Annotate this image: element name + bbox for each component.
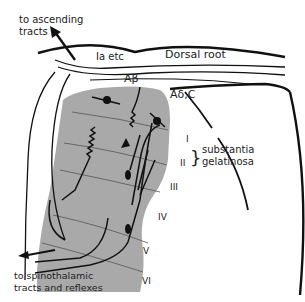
- label-gelatinosa: gelatinosa: [202, 156, 254, 167]
- label-ascending-1: to ascending: [19, 14, 83, 25]
- label-adelta-c: Aδ,C: [170, 88, 196, 101]
- lamina-V: V: [143, 246, 150, 256]
- label-spinothalamic-1: to spinothalamic: [14, 270, 93, 281]
- lamina-I: I: [186, 134, 189, 144]
- dorsal-horn-diagram: to ascending tracts Ia etc Dorsal root A…: [0, 0, 305, 302]
- lamina-IV: IV: [158, 212, 168, 222]
- label-ia: Ia etc: [96, 51, 124, 62]
- ascending-arrow: [50, 26, 75, 60]
- label-dorsal-root: Dorsal root: [165, 48, 226, 61]
- lamina-II: II: [180, 158, 185, 168]
- lamina-III: III: [170, 182, 178, 192]
- label-spinothalamic-2: tracts and reflexes: [14, 282, 103, 293]
- label-ascending-2: tracts: [19, 26, 48, 37]
- label-abeta: Aβ: [124, 72, 139, 85]
- brace: }: [190, 147, 201, 168]
- lamina-VI: VI: [142, 276, 151, 286]
- label-substantia: substantia: [202, 144, 254, 155]
